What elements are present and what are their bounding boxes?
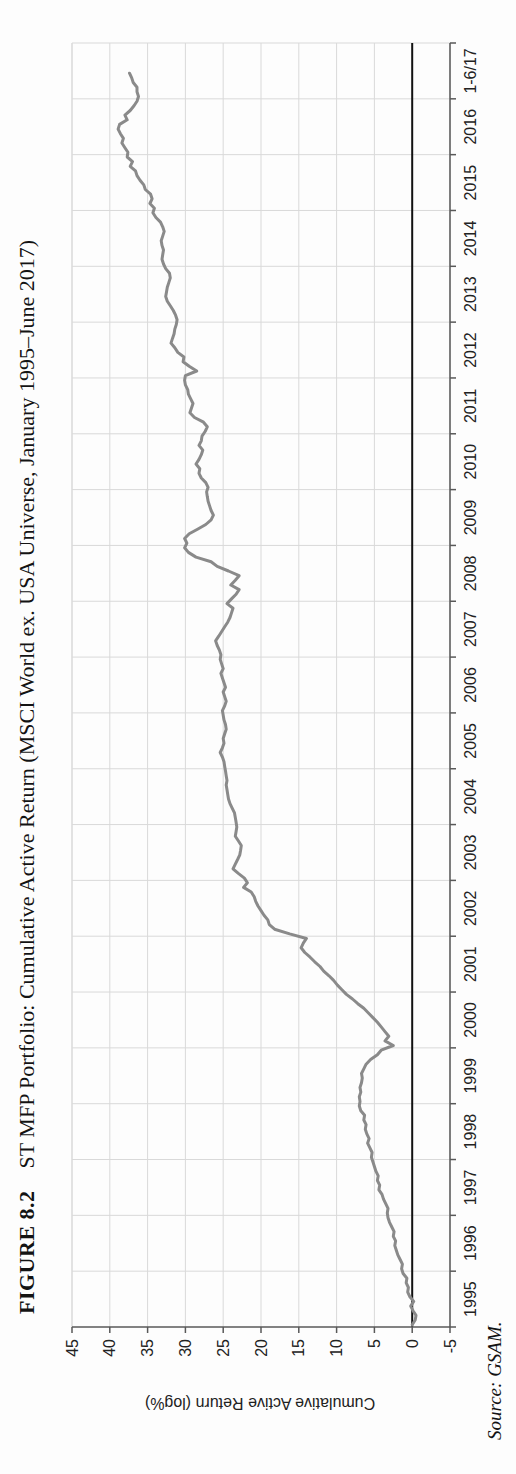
- book-page: FIGURE 8.2ST MFP Portfolio: Cumulative A…: [0, 0, 516, 1474]
- x-tick-label: 1998: [462, 1114, 479, 1150]
- x-tick-label: 2007: [462, 611, 479, 647]
- x-tick-label: 2016: [462, 109, 479, 145]
- y-tick-label: 20: [253, 1339, 270, 1357]
- x-tick-label: 2012: [462, 332, 479, 368]
- y-tick-label: 10: [328, 1339, 345, 1357]
- x-tick-label: 2005: [462, 723, 479, 759]
- x-tick-label: 2015: [462, 165, 479, 201]
- x-tick-label: 1997: [462, 1170, 479, 1206]
- y-tick-label: 35: [139, 1339, 156, 1357]
- y-tick-label: 25: [215, 1339, 232, 1357]
- rotated-figure: FIGURE 8.2ST MFP Portfolio: Cumulative A…: [0, 0, 516, 1474]
- x-tick-label: 2014: [462, 220, 479, 256]
- y-tick-label: 40: [101, 1339, 118, 1357]
- x-tick-label: 2001: [462, 946, 479, 982]
- chart-plot-area: 454035302520151050-519951996199719981999…: [0, 0, 516, 1474]
- x-tick-label: 2013: [462, 276, 479, 312]
- y-tick-label: 15: [290, 1339, 307, 1357]
- y-tick-label: 0: [404, 1339, 421, 1348]
- x-tick-label: 2009: [462, 500, 479, 536]
- active-return-line: [118, 73, 416, 1325]
- y-tick-label: 30: [177, 1339, 194, 1357]
- x-tick-label: 1999: [462, 1058, 479, 1094]
- x-tick-label: 2000: [462, 1002, 479, 1038]
- x-tick-label: 1-6/17: [462, 48, 479, 93]
- x-tick-label: 2011: [462, 389, 479, 424]
- x-tick-label: 2010: [462, 444, 479, 480]
- y-tick-label: 45: [64, 1339, 81, 1357]
- y-tick-label: -5: [442, 1339, 459, 1353]
- x-tick-label: 1996: [462, 1225, 479, 1261]
- x-tick-label: 2006: [462, 667, 479, 703]
- x-tick-label: 2004: [462, 779, 479, 815]
- y-tick-label: 5: [366, 1339, 383, 1348]
- x-tick-label: 2003: [462, 835, 479, 871]
- x-tick-label: 2008: [462, 555, 479, 591]
- x-tick-label: 2002: [462, 890, 479, 926]
- source-note: Source: GSAM.: [484, 1321, 506, 1440]
- x-tick-label: 1995: [462, 1281, 479, 1317]
